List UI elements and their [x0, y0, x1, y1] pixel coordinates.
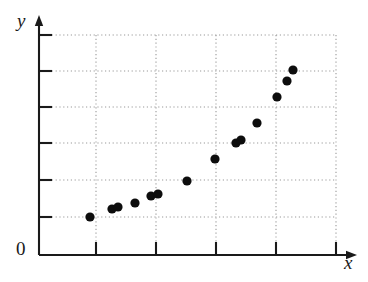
- scatter-plot-canvas: [0, 0, 368, 282]
- y-axis-label: y: [17, 11, 25, 30]
- origin-label: 0: [16, 239, 26, 258]
- data-point: [130, 198, 139, 207]
- data-point: [288, 65, 297, 74]
- axes: [35, 15, 357, 259]
- data-point: [210, 154, 219, 163]
- x-axis-label: x: [344, 253, 352, 272]
- data-point: [85, 212, 94, 221]
- data-point: [182, 176, 191, 185]
- scatter-plot-figure: y x 0: [0, 0, 368, 282]
- data-point: [272, 92, 281, 101]
- data-point: [252, 118, 261, 127]
- data-point: [282, 76, 291, 85]
- data-point: [236, 135, 245, 144]
- data-point: [113, 202, 122, 211]
- y-axis-arrow-icon: [35, 15, 43, 26]
- data-point: [153, 189, 162, 198]
